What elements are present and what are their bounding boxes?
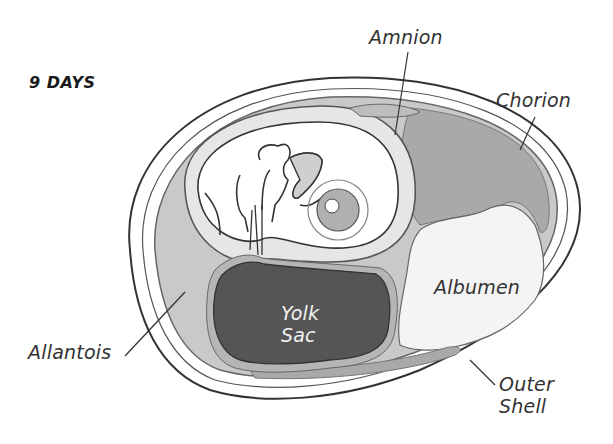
albumen-label: Albumen [434, 276, 520, 298]
allantois-label: Allantois [28, 341, 111, 363]
chorion-label: Chorion [496, 89, 571, 111]
diagram-title: 9 DAYS [29, 73, 96, 92]
outer-shell-label-line1: Outer [499, 373, 554, 395]
outer-shell-label: Outer Shell [499, 373, 554, 417]
eye-pupil [325, 199, 339, 213]
egg-development-diagram: 9 DAYS Amnion Chorion Albumen Yolk Sac A… [0, 0, 613, 444]
outer-shell-label-line2: Shell [499, 395, 554, 417]
yolk-sac-label-line2: Sac [281, 324, 319, 346]
yolk-sac-label: Yolk Sac [281, 302, 319, 346]
amnion-label: Amnion [369, 26, 443, 48]
yolk-sac-label-line1: Yolk [281, 302, 319, 324]
outer-shell-leader-line [470, 360, 495, 385]
